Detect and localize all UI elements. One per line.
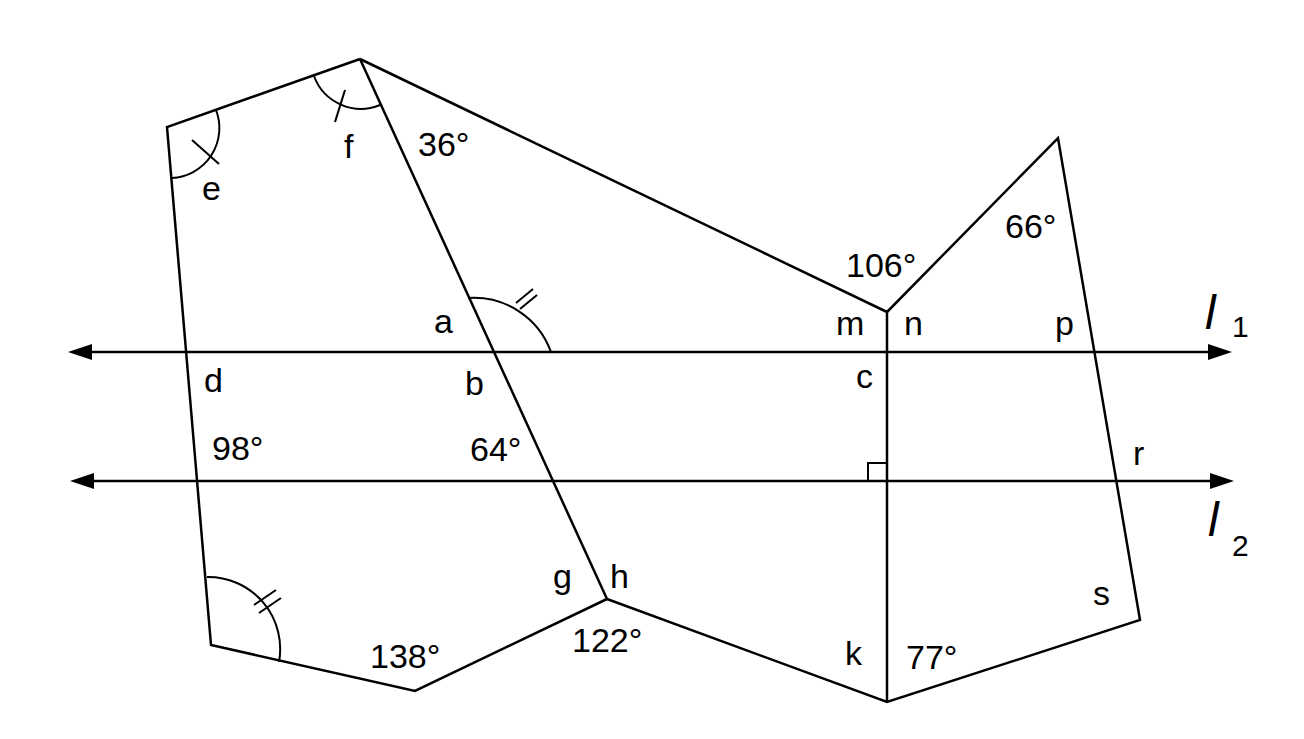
- angle-var-b: b: [465, 364, 484, 402]
- svg-text:l: l: [1205, 286, 1217, 339]
- tick-mark: [192, 140, 219, 164]
- angle-var-f: f: [344, 127, 354, 165]
- angle-label-98: 98°: [212, 429, 263, 467]
- angle-label-36: 36°: [418, 125, 469, 163]
- line-l2: [70, 473, 1234, 489]
- right-angle-mark: [868, 463, 887, 481]
- line-label-l1: l 1: [1205, 286, 1249, 343]
- top-edge: [360, 59, 887, 312]
- geometry-diagram: 36° 106° 66° 98° 64° 138° 122° 77° e f a…: [0, 0, 1304, 739]
- right-polygon: [607, 138, 1140, 702]
- arrow-left-icon: [70, 473, 94, 489]
- arrow-right-icon: [1210, 473, 1234, 489]
- angle-var-c: c: [856, 357, 873, 395]
- angle-label-66: 66°: [1005, 207, 1056, 245]
- svg-text:l: l: [1208, 493, 1220, 546]
- angle-label-64: 64°: [470, 430, 521, 468]
- angle-var-p: p: [1055, 304, 1074, 342]
- angle-label-106: 106°: [846, 246, 916, 284]
- line-l1: [68, 344, 1232, 360]
- angle-var-k: k: [845, 634, 863, 672]
- angle-label-77: 77°: [906, 638, 957, 676]
- angle-var-n: n: [904, 304, 923, 342]
- left-polygon: [167, 59, 607, 691]
- angle-label-122: 122°: [572, 621, 642, 659]
- angle-var-d: d: [204, 361, 223, 399]
- angle-var-m: m: [836, 304, 864, 342]
- angle-label-138: 138°: [370, 637, 440, 675]
- angle-var-g: g: [553, 557, 572, 595]
- svg-text:2: 2: [1232, 529, 1249, 562]
- angle-var-e: e: [202, 169, 221, 207]
- angle-var-s: s: [1093, 574, 1110, 612]
- arrow-left-icon: [68, 344, 92, 360]
- svg-text:1: 1: [1232, 310, 1249, 343]
- angle-var-a: a: [434, 302, 453, 340]
- arrow-right-icon: [1208, 344, 1232, 360]
- transversal: [360, 59, 607, 599]
- angle-var-h: h: [610, 557, 629, 595]
- angle-arc-bottom-left: [207, 577, 280, 662]
- angle-var-r: r: [1133, 434, 1144, 472]
- line-label-l2: l 2: [1208, 493, 1249, 562]
